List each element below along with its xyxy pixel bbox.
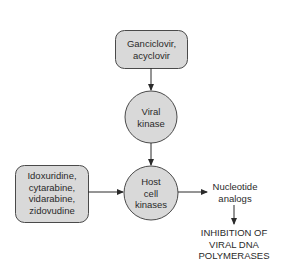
- idoxuridine-label: Idoxuridine, cytarabine, vidarabine, zid…: [15, 170, 89, 216]
- host-cell-kinases-label: Host cell kinases: [121, 176, 181, 211]
- antiviral-activation-diagram: Ganciclovir, acyclovir Viral kinase Idox…: [0, 0, 282, 273]
- inhibition-label: INHIBITION OF VIRAL DNA POLYMERASES: [194, 227, 274, 262]
- ganciclovir-label: Ganciclovir, acyclovir: [115, 38, 188, 61]
- viral-kinase-label: Viral kinase: [121, 106, 181, 129]
- nucleotide-analogs-label: Nucleotide analogs: [204, 181, 266, 204]
